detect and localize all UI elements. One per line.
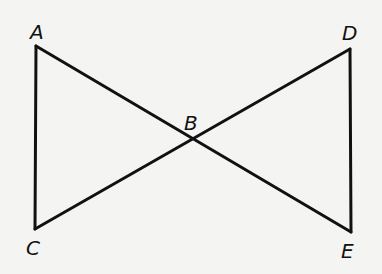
label-point-E: E	[341, 241, 354, 261]
segment-AC	[35, 46, 36, 229]
label-point-D: D	[342, 23, 357, 43]
diagram-canvas	[0, 0, 382, 274]
label-point-C: C	[26, 238, 40, 258]
label-point-A: A	[30, 22, 44, 42]
segment-DE	[350, 49, 351, 232]
label-point-B: B	[184, 113, 198, 133]
geometry-diagram: A B C D E	[0, 0, 382, 274]
